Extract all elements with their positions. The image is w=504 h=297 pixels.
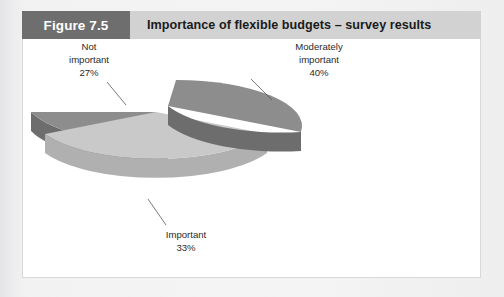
- figure-header-bar: Figure 7.5 Importance of flexible budget…: [22, 11, 481, 39]
- pie-label-moderately-important: Moderately important 40%: [295, 41, 343, 78]
- chart-area: Not important 27% Moderately important 4…: [23, 39, 480, 277]
- leader-line-not-important: [107, 82, 126, 105]
- pie-label-important: Important 33%: [166, 229, 207, 253]
- pie-label-not-important-line2: important: [69, 54, 109, 65]
- pie-label-important-line1: Important: [166, 229, 207, 240]
- pie-label-moderately-important-line1: Moderately: [295, 41, 343, 52]
- pie-label-not-important-value: 27%: [79, 67, 99, 78]
- pie-label-moderately-important-value: 40%: [309, 67, 329, 78]
- pie-label-moderately-important-line2: important: [299, 54, 339, 65]
- figure-number-badge: Figure 7.5: [22, 11, 130, 39]
- pie-label-important-value: 33%: [176, 242, 196, 253]
- pie-chart: Not important 27% Moderately important 4…: [23, 39, 480, 277]
- pie-label-not-important: Not important 27%: [69, 41, 109, 78]
- pie-label-not-important-line1: Not: [82, 41, 97, 52]
- leader-line-important: [148, 199, 166, 225]
- figure-title: Importance of flexible budgets – survey …: [130, 11, 481, 39]
